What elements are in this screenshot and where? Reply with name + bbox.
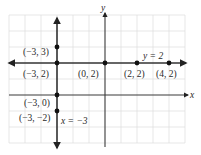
point-0-2 [103,61,108,66]
point-label: (4, 2) [156,69,177,80]
point-neg3-3 [55,45,60,50]
grid [9,15,185,143]
point-4-2 [167,61,172,66]
point-label: (−3, 0) [24,98,50,109]
point-neg3-0 [55,93,60,98]
point-label: (−3, 3) [23,47,49,58]
point-label: (0, 2) [78,69,99,80]
point-neg3-2 [55,61,60,66]
point-label: (−3, 2) [23,69,49,80]
y-axis-label: y [100,3,106,13]
point-2-2 [135,61,140,66]
label-x-equals-neg3: x = −3 [60,116,88,126]
coordinate-graph: x y y = 2 x = −3 (−3, 3) (−3, 2) (0, 2) … [0,0,201,155]
point-label: (−3, −2) [19,113,50,124]
point-label: (2, 2) [124,69,145,80]
label-y-equals-2: y = 2 [142,51,163,61]
point-neg3-neg2 [55,109,60,114]
x-axis-label: x [189,90,195,100]
